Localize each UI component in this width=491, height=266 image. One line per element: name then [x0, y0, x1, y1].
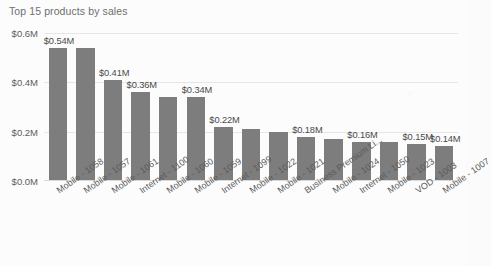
x-label-slot: Mobile - 1059 [182, 183, 210, 263]
y-axis-tick-label: $0.4M [12, 77, 38, 88]
x-label-slot: Business Premium Li... [292, 183, 320, 263]
x-label-slot: Mobile - 1061 [99, 183, 127, 263]
bar-series: $0.54M$0.41M$0.36M$0.34M$0.22M$0.18M$0.1… [44, 33, 458, 181]
x-label-slot: Mobile - 1023 [375, 183, 403, 263]
y-axis-tick-label: $0.6M [12, 28, 38, 39]
x-label-slot: Internet - 1050 [348, 183, 376, 263]
bar-value-label: $0.41M [99, 68, 129, 78]
x-label-slot: Mobile - 1060 [154, 183, 182, 263]
y-axis-tick-label: $0.0M [12, 176, 38, 187]
x-label-slot: Mobile - 1057 [72, 183, 100, 263]
bar-value-label: $0.18M [292, 125, 322, 135]
x-label-slot: VOD - 1003 [403, 183, 431, 263]
x-axis-labels: Mobile - 1058Mobile - 1057Mobile - 1061I… [44, 183, 458, 263]
bar-value-label: $0.22M [209, 115, 239, 125]
y-axis-tick-label: $0.2M [12, 126, 38, 137]
plot-area: $0.6M$0.4M$0.2M$0.0M $0.54M$0.41M$0.36M$… [44, 33, 458, 181]
x-label-slot: Internet - 1099 [210, 183, 238, 263]
x-label-slot: Mobile - 1022 [237, 183, 265, 263]
x-label-slot: Mobile - 1058 [44, 183, 72, 263]
bar-value-label: $0.54M [44, 36, 74, 46]
bar-value-label: $0.15M [403, 132, 433, 142]
bar-slot: $0.54M [44, 33, 72, 181]
x-label-slot: Mobile - 1021 [265, 183, 293, 263]
bar-value-label: $0.34M [182, 85, 212, 95]
x-label-slot: Mobile - 1024 [320, 183, 348, 263]
chart-title: Top 15 products by sales [9, 5, 128, 17]
bar[interactable]: $0.54M [49, 48, 67, 181]
x-label-slot: Mobile - 1007 [430, 183, 458, 263]
x-label-slot: Internet - 1100 [127, 183, 155, 263]
bar-slot: $0.14M [430, 33, 458, 181]
bar-value-label: $0.14M [430, 134, 460, 144]
bar-value-label: $0.36M [127, 80, 157, 90]
